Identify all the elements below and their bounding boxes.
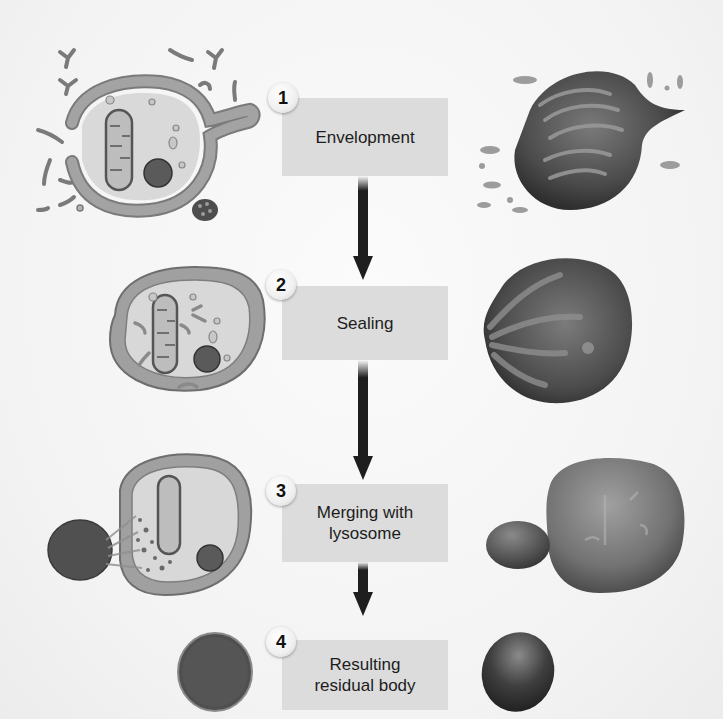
residual-body-schematic <box>170 630 260 715</box>
cell-envelopment-schematic <box>10 40 270 240</box>
step-1-label: Envelopment <box>315 127 414 148</box>
step-4-label: Resulting residual body <box>314 654 415 696</box>
cell-lysosome-merge-3d <box>470 445 700 595</box>
down-arrow-3 <box>353 562 373 616</box>
step-3-badge: 3 <box>266 476 296 506</box>
cell-sealed-3d <box>470 245 645 410</box>
down-arrow-1 <box>353 176 373 280</box>
residual-body-3d <box>478 628 558 713</box>
step-2-label: Sealing <box>337 313 394 334</box>
step-1-box: Envelopment <box>282 98 448 176</box>
step-3-box: Merging with lysosome <box>282 484 448 562</box>
step-3-label: Merging with lysosome <box>317 502 413 544</box>
step-1-badge: 1 <box>268 83 298 113</box>
step-4-badge: 4 <box>266 627 296 657</box>
cell-sealed-schematic <box>95 255 275 405</box>
cell-envelopment-3d <box>470 50 720 240</box>
step-2-badge: 2 <box>266 270 296 300</box>
down-arrow-2 <box>353 360 373 480</box>
step-4-box: Resulting residual body <box>282 640 448 710</box>
step-2-box: Sealing <box>282 286 448 360</box>
cell-lysosome-merge-schematic <box>40 450 260 600</box>
